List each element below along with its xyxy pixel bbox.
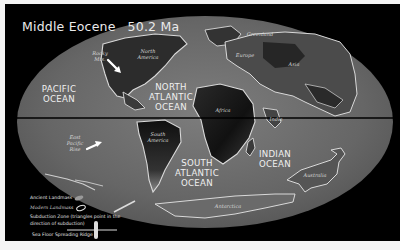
greenland-label: Greenland (245, 31, 275, 37)
antarctica-label: Antarctica (211, 203, 245, 209)
epoch-label: Middle Eocene (22, 19, 116, 34)
paleogeographic-map: Middle Eocene50.2 Ma PACIFIC OCEAN NORTH… (5, 4, 400, 241)
north-atlantic-ocean-label: NORTH ATLANTIC OCEAN (145, 82, 197, 112)
legend-subduction-zone-label-1: Subduction Zone (triangles point in the (30, 214, 120, 220)
legend-modern-landmass-label: Modern Landmass (30, 205, 73, 211)
legend-ancient-landmass-label: Ancient Landmass (30, 195, 72, 201)
south-america-label: South America (145, 131, 171, 143)
india-label: India (267, 116, 285, 122)
europe-label: Europe (233, 52, 257, 58)
pacific-ocean-label: PACIFIC OCEAN (35, 84, 83, 104)
north-america-label: North America (135, 48, 161, 60)
age-label: 50.2 Ma (128, 19, 180, 34)
legend-spreading-ridge-label: Sea Floor Spreading Ridge (32, 232, 93, 238)
legend-modern-landmass-icon (76, 204, 86, 211)
indian-ocean-label: INDIAN OCEAN (255, 149, 295, 169)
map-title: Middle Eocene50.2 Ma (22, 19, 179, 34)
rocky-mts-label: Rocky Mts. (89, 50, 111, 62)
africa-label: Africa (212, 107, 234, 113)
legend-subduction-zone-label-2: direction of subduction) (30, 221, 85, 227)
asia-label: Asia (285, 61, 303, 67)
east-pacific-rise-label: East Pacific Rise (65, 134, 85, 152)
south-atlantic-ocean-label: SOUTH ATLANTIC OCEAN (171, 158, 223, 188)
australia-label: Australia (301, 172, 329, 178)
